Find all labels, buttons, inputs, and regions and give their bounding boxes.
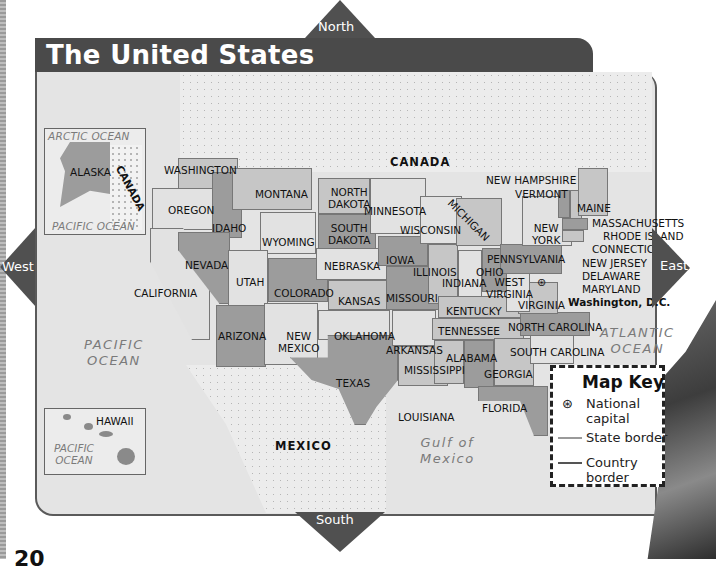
inset-alaska-label: ALASKA xyxy=(70,166,111,178)
label-new-york: NEW YORK xyxy=(532,222,560,246)
pacific-ocean-line-1: PACIFIC xyxy=(84,337,144,353)
map-key-item-state-border: State border xyxy=(586,430,667,445)
state-connecticut xyxy=(562,230,584,242)
star-in-circle-icon: ⊛ xyxy=(562,396,573,411)
wv-line-1: WEST xyxy=(486,276,533,288)
inset-pacific-ocean-label: PACIFIC OCEAN xyxy=(52,218,135,234)
compass-east-label: East xyxy=(660,258,688,273)
inset-hawaii-ocean-label: PACIFIC OCEAN xyxy=(54,442,94,466)
label-maine: MAINE xyxy=(577,202,611,214)
hawaii-ocean-line-1: PACIFIC xyxy=(54,442,94,454)
inset-arctic-ocean-label: ARCTIC OCEAN xyxy=(48,128,130,144)
label-nevada: NEVADA xyxy=(185,259,228,271)
state-massachusetts xyxy=(562,218,588,230)
pacific-ocean-label: PACIFIC OCEAN xyxy=(84,337,144,369)
label-kansas: KANSAS xyxy=(338,295,380,307)
label-massachusetts: MASSACHUSETTS xyxy=(592,217,684,229)
key-capital-line-1: National xyxy=(586,396,640,411)
sd-line-2: DAKOTA xyxy=(328,234,370,246)
atlantic-ocean-line-1: ATLANTIC xyxy=(600,325,675,341)
national-capital-star-icon: ⊛ xyxy=(537,276,546,289)
hawaii-ocean-line-2: OCEAN xyxy=(54,454,94,466)
label-arkansas: ARKANSAS xyxy=(386,344,443,356)
gulf-of-mexico-label: Gulf of Mexico xyxy=(420,435,475,467)
label-new-jersey: NEW JERSEY xyxy=(582,257,647,269)
label-delaware: DELAWARE xyxy=(582,270,640,282)
label-florida: FLORIDA xyxy=(482,402,527,414)
atlantic-ocean-label: ATLANTIC OCEAN xyxy=(600,325,675,357)
gulf-line-1: Gulf of xyxy=(420,435,475,451)
compass-west-label: West xyxy=(2,259,34,274)
country-label-mexico: MEXICO xyxy=(275,440,332,452)
compass-north-label: North xyxy=(318,19,354,34)
label-rhode-island: RHODE ISLAND xyxy=(603,230,684,242)
pacific-ocean-line-2: OCEAN xyxy=(84,353,144,369)
label-arizona: ARIZONA xyxy=(218,330,266,342)
hawaii-island xyxy=(117,448,135,465)
label-indiana: INDIANA xyxy=(442,277,486,289)
state-alabama xyxy=(464,340,494,388)
sd-line-1: SOUTH xyxy=(328,222,370,234)
country-border-line-icon xyxy=(558,462,582,464)
inset-hawaii-label: HAWAII xyxy=(96,415,134,427)
ny-line-2: YORK xyxy=(532,234,560,246)
label-utah: UTAH xyxy=(236,276,264,288)
label-tennessee: TENNESSEE xyxy=(438,325,500,337)
label-oregon: OREGON xyxy=(168,204,214,216)
label-oklahoma: OKLAHOMA xyxy=(334,330,395,342)
label-wisconsin: WISCONSIN xyxy=(400,224,461,236)
label-alabama: ALABAMA xyxy=(446,352,497,364)
page-number: 20 xyxy=(14,548,45,570)
label-virginia: VIRGINIA xyxy=(518,299,565,311)
state-border-line-icon xyxy=(558,437,582,439)
label-new-hampshire: NEW HAMPSHIRE xyxy=(486,174,576,186)
map-key-item-capital: National capital xyxy=(586,396,640,426)
wv-line-2: VIRGINIA xyxy=(486,288,533,300)
label-pennsylvania: PENNSYLVANIA xyxy=(487,253,565,265)
atlantic-ocean-line-2: OCEAN xyxy=(600,341,675,357)
label-idaho: IDAHO xyxy=(212,222,246,234)
page-title: The United States xyxy=(46,40,315,70)
label-iowa: IOWA xyxy=(386,254,414,266)
map-key-item-country-border: Country border xyxy=(586,455,638,485)
label-new-mexico: NEW MEXICO xyxy=(278,330,320,354)
label-washington: WASHINGTON xyxy=(164,164,237,176)
label-texas: TEXAS xyxy=(336,377,370,389)
label-louisiana: LOUISIANA xyxy=(398,411,455,423)
map-key-title: Map Key xyxy=(582,372,664,392)
compass-south-label: South xyxy=(316,512,354,527)
label-montana: MONTANA xyxy=(255,188,308,200)
state-arkansas xyxy=(392,310,436,346)
label-georgia: GEORGIA xyxy=(484,368,533,380)
label-kentucky: KENTUCKY xyxy=(446,305,502,317)
new-mexico-line-1: NEW xyxy=(278,330,320,342)
label-nebraska: NEBRASKA xyxy=(324,260,380,272)
label-wyoming: WYOMING xyxy=(262,236,315,248)
title-bar-extension xyxy=(293,38,593,72)
key-country-border-line-2: border xyxy=(586,470,638,485)
label-vermont: VERMONT xyxy=(515,188,568,200)
label-mississippi: MISSISSIPPI xyxy=(404,364,465,376)
label-west-virginia: WEST VIRGINIA xyxy=(486,276,533,300)
hawaii-island xyxy=(84,423,93,430)
key-country-border-line-1: Country xyxy=(586,455,638,470)
label-maryland: MARYLAND xyxy=(582,283,641,295)
label-north-carolina: NORTH CAROLINA xyxy=(508,321,602,333)
new-mexico-line-2: MEXICO xyxy=(278,342,320,354)
key-capital-line-2: capital xyxy=(586,411,640,426)
label-minnesota: MINNESOTA xyxy=(364,205,426,217)
gulf-line-2: Mexico xyxy=(420,451,475,467)
label-california: CALIFORNIA xyxy=(134,287,197,299)
hawaii-island xyxy=(63,414,71,420)
nd-line-1: NORTH xyxy=(328,186,370,198)
hawaii-island xyxy=(99,431,113,437)
country-label-canada: CANADA xyxy=(390,156,450,168)
label-colorado: COLORADO xyxy=(274,287,334,299)
label-south-carolina: SOUTH CAROLINA xyxy=(510,346,604,358)
page-binding-edge xyxy=(0,0,6,559)
key-state-border-line: State border xyxy=(586,430,667,445)
ny-line-1: NEW xyxy=(532,222,560,234)
label-south-dakota: SOUTH DAKOTA xyxy=(328,222,370,246)
label-missouri: MISSOURI xyxy=(386,292,438,304)
